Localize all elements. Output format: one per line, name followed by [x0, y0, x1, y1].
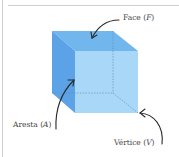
- vertice-label: Vértice (V): [114, 139, 155, 147]
- vertice-label-word: Vértice: [114, 138, 141, 147]
- face-label-close: ): [151, 13, 154, 22]
- aresta-label-word: Aresta: [13, 120, 38, 129]
- vertice-label-close: ): [152, 138, 155, 147]
- cube-diagram: [0, 0, 179, 157]
- aresta-label: Aresta (A): [13, 121, 51, 129]
- face-label-word: Face: [123, 13, 141, 22]
- cube-front-face: [75, 51, 138, 113]
- face-label: Face (F): [123, 14, 154, 22]
- aresta-label-close: ): [49, 120, 52, 129]
